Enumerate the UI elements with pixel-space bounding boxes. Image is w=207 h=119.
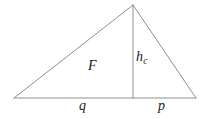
altitude-label: hc [136,50,147,64]
area-label: F [88,59,97,73]
area-label-text: F [88,58,97,73]
base-right-segment-label-text: p [158,98,165,113]
altitude-label-text: h [136,49,143,64]
triangle-left-side [14,5,133,98]
triangle-diagram-canvas [0,0,207,119]
base-right-segment-label: p [158,99,165,113]
base-left-segment-label-text: q [79,98,86,113]
triangle-diagram: F hc q p [0,0,207,119]
altitude-label-subscript: c [143,56,147,66]
base-left-segment-label: q [79,99,86,113]
